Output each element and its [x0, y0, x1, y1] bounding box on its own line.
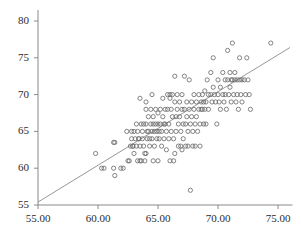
data-point [211, 56, 215, 60]
data-point [174, 129, 178, 133]
data-point [173, 74, 177, 78]
y-tick-label: 70 [0, 89, 29, 100]
data-point [140, 129, 144, 133]
y-tick-label: 80 [0, 15, 29, 26]
data-point [151, 159, 155, 163]
data-point [188, 122, 192, 126]
data-point [248, 107, 252, 111]
x-tick-label: 55.00 [13, 213, 63, 224]
data-point [193, 122, 197, 126]
regression-line [38, 47, 290, 202]
x-tick-label: 70.00 [193, 213, 243, 224]
data-point [198, 144, 202, 148]
data-point [173, 100, 177, 104]
data-point [134, 122, 138, 126]
data-point [229, 100, 233, 104]
data-point [240, 100, 244, 104]
data-point [188, 188, 192, 192]
data-point [228, 85, 232, 89]
data-point [187, 78, 191, 82]
x-axis-ticks [38, 205, 278, 209]
data-points-group [94, 41, 273, 192]
data-point [205, 78, 209, 82]
data-point [196, 129, 200, 133]
data-point [234, 100, 238, 104]
data-point [161, 115, 165, 119]
data-point [230, 41, 234, 45]
fit-line [38, 47, 290, 202]
data-point [216, 78, 220, 82]
data-point [149, 107, 153, 111]
data-point [148, 144, 152, 148]
data-point [182, 74, 186, 78]
x-tick-label: 60.00 [73, 213, 123, 224]
data-point [164, 129, 168, 133]
scatter-plot-figure: 556065707580 55.0060.0065.0070.0075.00 [0, 0, 301, 242]
data-point [150, 93, 154, 97]
data-point [228, 70, 232, 74]
data-point [215, 122, 219, 126]
data-point [226, 48, 230, 52]
data-point [192, 93, 196, 97]
y-tick-label: 60 [0, 162, 29, 173]
data-point [144, 100, 148, 104]
data-point [186, 129, 190, 133]
data-point [161, 96, 165, 100]
data-point [169, 129, 173, 133]
data-point [192, 107, 196, 111]
y-tick-label: 55 [0, 199, 29, 210]
data-point [224, 107, 228, 111]
data-point [156, 159, 160, 163]
data-point [178, 100, 182, 104]
data-point [218, 85, 222, 89]
data-point [175, 93, 179, 97]
data-point [191, 129, 195, 133]
data-point [173, 151, 177, 155]
data-point [218, 107, 222, 111]
data-point [238, 56, 242, 60]
data-point [203, 89, 207, 93]
data-point [138, 96, 142, 100]
y-tick-label: 65 [0, 125, 29, 136]
data-point [190, 100, 194, 104]
data-point [221, 70, 225, 74]
data-point [144, 107, 148, 111]
x-tick-label: 65.00 [133, 213, 183, 224]
data-point [112, 166, 116, 170]
data-point [146, 115, 150, 119]
data-point [164, 148, 168, 152]
x-tick-label: 75.00 [253, 213, 301, 224]
data-point [94, 151, 98, 155]
data-point [269, 41, 273, 45]
data-point [181, 137, 185, 141]
data-point [158, 107, 162, 111]
data-point [194, 115, 198, 119]
plot-canvas [0, 0, 301, 242]
data-point [222, 100, 226, 104]
data-point [160, 144, 164, 148]
data-point [162, 137, 166, 141]
data-point [236, 107, 240, 111]
data-point [151, 115, 155, 119]
data-point [185, 100, 189, 104]
data-point [209, 70, 213, 74]
data-point [233, 70, 237, 74]
y-axis-ticks [34, 21, 38, 205]
data-point [194, 100, 198, 104]
data-point [185, 115, 189, 119]
y-tick-label: 75 [0, 52, 29, 63]
data-point [113, 173, 117, 177]
data-point [180, 93, 184, 97]
data-point [152, 144, 156, 148]
data-point [190, 115, 194, 119]
data-point [179, 129, 183, 133]
data-point [175, 107, 179, 111]
data-point [176, 122, 180, 126]
data-point [211, 85, 215, 89]
data-point [172, 137, 176, 141]
data-point [245, 56, 249, 60]
data-point [132, 151, 136, 155]
data-point [167, 137, 171, 141]
data-point [125, 129, 129, 133]
